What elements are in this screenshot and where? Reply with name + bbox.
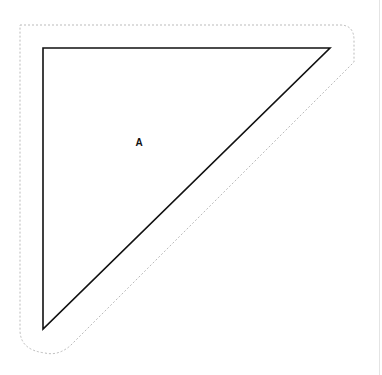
triangle-shape[interactable] bbox=[43, 48, 330, 329]
triangle-label: A bbox=[135, 137, 142, 148]
diagram-canvas[interactable] bbox=[0, 0, 382, 375]
